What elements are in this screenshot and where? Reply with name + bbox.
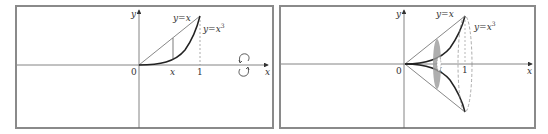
washer-hole <box>437 57 441 71</box>
label-y-equals-x-cubed: y=x3 <box>473 20 496 32</box>
x-tick-label: x <box>170 67 175 77</box>
right-axes <box>281 10 532 128</box>
x-axis-label: x <box>265 67 270 77</box>
x-axis-label: x <box>527 66 532 76</box>
label-y-equals-x: y=x <box>435 9 454 19</box>
label-y-equals-x: y=x <box>172 13 191 23</box>
left-axes <box>17 10 268 128</box>
label-y-equals-x-cubed: y=x3 <box>202 22 225 34</box>
diagram-canvas: y x 0 x 1 y=x y=x3 y x 0 x 1 y=x y=x3 <box>0 0 548 134</box>
one-tick-label: 1 <box>462 65 468 75</box>
y-axis-label: y <box>395 9 402 19</box>
origin-label: 0 <box>396 66 402 76</box>
one-tick-label: 1 <box>197 67 203 77</box>
origin-label: 0 <box>131 67 137 77</box>
y-axis-label: y <box>130 9 137 19</box>
